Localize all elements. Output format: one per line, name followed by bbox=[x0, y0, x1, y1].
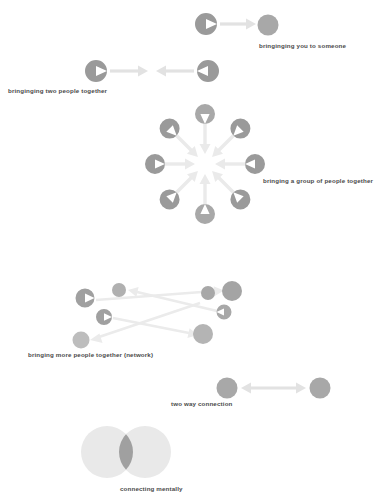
arrow-left-inward bbox=[156, 66, 194, 77]
node-circle-plain bbox=[258, 15, 279, 36]
radial-nodes bbox=[145, 104, 265, 224]
caption-bringing-two-people-together: bringinging two people together bbox=[8, 88, 107, 94]
arrow-right-inward bbox=[110, 66, 148, 77]
arrow-right bbox=[220, 19, 256, 30]
node-circle-notched-right bbox=[197, 60, 219, 82]
node-circle-notched-left bbox=[85, 60, 107, 82]
diagram-bring-to-someone bbox=[195, 13, 279, 36]
arrow-double-headed bbox=[241, 383, 306, 394]
node-circle-right bbox=[310, 378, 331, 399]
diagram-network bbox=[73, 281, 243, 349]
diagram-canvas bbox=[0, 0, 383, 502]
caption-bringing-a-group-together: bringing a group of people together bbox=[263, 178, 373, 184]
caption-connecting-mentally: connecting mentally bbox=[120, 486, 183, 492]
caption-bringing-you-to-someone: bringinging you to someone bbox=[259, 43, 346, 49]
caption-bringing-more-people-together-network: bringing more people together (network) bbox=[28, 352, 153, 358]
node-circle-notched bbox=[195, 13, 217, 35]
diagram-two-people bbox=[85, 60, 219, 82]
diagram-group-radial bbox=[145, 104, 265, 224]
caption-two-way-connection: two way connection bbox=[171, 401, 233, 407]
radial-arrows bbox=[165, 124, 245, 204]
diagram-two-way bbox=[217, 378, 331, 399]
node-circle-left bbox=[217, 378, 238, 399]
diagram-venn bbox=[81, 426, 171, 478]
